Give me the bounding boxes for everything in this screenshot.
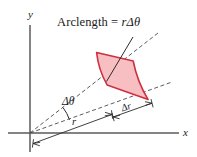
ray-lower-boundary (30, 82, 172, 133)
radius-dimension-arrow-start-lower (33, 144, 40, 146)
arclength-callout-delta-theta: Δθ (126, 15, 140, 29)
delta-theta-arc-group (63, 108, 69, 120)
area-element-region (97, 53, 149, 100)
axes-group (8, 25, 179, 152)
x-axis-label: x (183, 127, 188, 138)
radius-label: r (72, 117, 76, 128)
polar-area-element-figure: y x Arclength = rΔθ Δθ r Δr (0, 0, 197, 157)
delta-r-dimension-arrow-start-lower (113, 117, 120, 119)
arclength-callout-prefix: Arclength = (57, 15, 121, 29)
delta-theta-arc (63, 108, 69, 120)
delta-theta-label: Δθ (62, 96, 74, 108)
delta-r-dimension-arrow-end-lower (145, 103, 152, 105)
radius-dimension-arrow-end-upper (105, 112, 112, 114)
delta-r-dimension-arrow-end-upper (145, 102, 152, 104)
area-element-shape (97, 53, 149, 100)
radius-dimension-arrow-start-upper (33, 142, 40, 143)
arclength-callout-label: Arclength = rΔθ (57, 16, 140, 29)
construction-rays (30, 33, 172, 133)
y-axis-label: y (28, 9, 33, 20)
